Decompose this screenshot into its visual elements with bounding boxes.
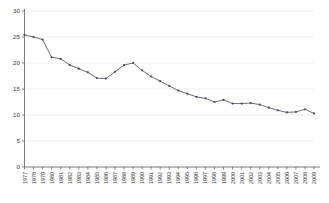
data-point	[60, 58, 62, 60]
x-axis-tick-label: 2007	[293, 172, 299, 184]
data-point	[32, 36, 34, 38]
data-point	[286, 111, 288, 113]
data-series	[23, 34, 315, 115]
data-point	[304, 108, 306, 110]
data-point	[150, 75, 152, 77]
x-axis-tick-label: 2009	[311, 172, 317, 184]
data-point	[159, 80, 161, 82]
data-point	[186, 93, 188, 95]
line-chart: 051015202530 197719781979198019811982198…	[0, 0, 329, 203]
data-point	[51, 56, 53, 58]
x-axis-tick-label: 2005	[275, 172, 281, 184]
x-axis-tick-label: 1986	[103, 172, 109, 184]
y-axis-tick-label: 20	[13, 59, 20, 66]
data-point	[41, 39, 43, 41]
x-axis-tick-label: 1997	[202, 172, 208, 184]
data-point	[295, 111, 297, 113]
data-point	[213, 101, 215, 103]
data-point	[114, 71, 116, 73]
data-point	[204, 97, 206, 99]
x-axis-tick-label: 1992	[157, 172, 163, 184]
x-axis-tick-label: 2001	[239, 172, 245, 184]
x-axis-tick-label: 1994	[175, 172, 181, 184]
x-axis-tick-label: 2004	[266, 172, 272, 184]
x-axis-tick-label: 1978	[31, 172, 37, 184]
y-axis-tick-label: 15	[13, 85, 20, 92]
data-point	[195, 96, 197, 98]
x-axis-tick-label: 2002	[248, 172, 254, 184]
data-point	[313, 112, 315, 114]
series-line	[25, 35, 315, 114]
x-axis-tick-label: 1998	[211, 172, 217, 184]
x-axis-tick-label: 1993	[166, 172, 172, 184]
x-axis-tick-label: 1988	[121, 172, 127, 184]
x-axis-tick-label: 1979	[40, 172, 46, 184]
data-point	[87, 71, 89, 73]
data-point	[231, 102, 233, 104]
data-point	[141, 69, 143, 71]
x-axis-tick-label: 1999	[221, 172, 227, 184]
x-axis-tick-label: 2003	[257, 172, 263, 184]
x-axis: 1977197819791980198119821983198419851986…	[22, 167, 321, 184]
data-point	[69, 64, 71, 66]
data-point	[250, 102, 252, 104]
data-point	[268, 107, 270, 109]
x-axis-tick-label: 1980	[49, 172, 55, 184]
x-axis-tick-label: 1996	[193, 172, 199, 184]
x-axis-tick-label: 2008	[302, 172, 308, 184]
data-point	[241, 102, 243, 104]
y-axis-tick-label: 30	[13, 7, 20, 14]
y-axis-tick-label: 0	[17, 163, 21, 170]
y-axis-tick-label: 10	[13, 111, 20, 118]
x-axis-tick-label: 1983	[76, 172, 82, 184]
data-point	[222, 99, 224, 101]
data-point	[123, 64, 125, 66]
x-axis-tick-label: 2006	[284, 172, 290, 184]
x-axis-tick-label: 1984	[85, 172, 91, 184]
chart-canvas: 051015202530 197719781979198019811982198…	[0, 0, 329, 203]
x-axis-tick-label: 1987	[112, 172, 118, 184]
data-point	[96, 77, 98, 79]
x-axis-tick-label: 1989	[130, 172, 136, 184]
x-axis-tick-label: 1977	[22, 172, 28, 184]
gridlines	[25, 11, 315, 141]
y-axis-tick-label: 5	[17, 137, 21, 144]
y-axis: 051015202530	[13, 7, 24, 170]
data-point	[177, 89, 179, 91]
x-axis-tick-label: 1981	[58, 172, 64, 184]
x-axis-tick-label: 2000	[230, 172, 236, 184]
x-axis-tick-label: 1990	[139, 172, 145, 184]
y-axis-tick-label: 25	[13, 33, 20, 40]
data-point	[259, 104, 261, 106]
data-point	[23, 34, 25, 36]
data-point	[168, 85, 170, 87]
x-axis-tick-label: 1982	[67, 172, 73, 184]
data-point	[105, 78, 107, 80]
data-point	[78, 68, 80, 70]
x-axis-tick-label: 1985	[94, 172, 100, 184]
x-axis-tick-label: 1991	[148, 172, 154, 184]
x-axis-tick-label: 1995	[184, 172, 190, 184]
data-point	[132, 62, 134, 64]
data-point	[277, 109, 279, 111]
